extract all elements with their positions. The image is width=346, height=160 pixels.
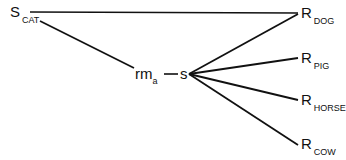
node-r-dog: RDOG (301, 5, 334, 21)
node-r-horse-sub: HORSE (314, 103, 346, 113)
node-r-cow-main: R (301, 135, 312, 152)
edge-s-rhorse (189, 74, 298, 100)
node-r-pig-main: R (301, 49, 312, 66)
edge-scat-rdog (30, 12, 298, 13)
node-s-cat: SCAT (10, 4, 39, 20)
node-r-pig: RPIG (301, 50, 329, 66)
node-r-dog-sub: DOG (314, 16, 335, 26)
node-r-cow: RCOW (301, 136, 336, 152)
node-rm-a-sub: a (153, 76, 158, 86)
edge-scat-rma (40, 21, 134, 68)
node-s-cat-sub: CAT (22, 15, 39, 25)
node-rm-a: rma (135, 66, 158, 82)
node-r-horse-main: R (301, 91, 312, 108)
node-s-cat-main: S (10, 3, 20, 20)
node-r-cow-sub: COW (314, 147, 336, 157)
node-rm-a-main: rm (135, 65, 153, 82)
node-s: s (180, 66, 188, 82)
edge-s-rcow (189, 74, 298, 145)
node-r-dog-main: R (301, 4, 312, 21)
node-r-pig-sub: PIG (314, 61, 330, 71)
edge-s-rdog (189, 14, 298, 74)
node-r-horse: RHORSE (301, 92, 346, 108)
node-s-main: s (180, 65, 188, 82)
